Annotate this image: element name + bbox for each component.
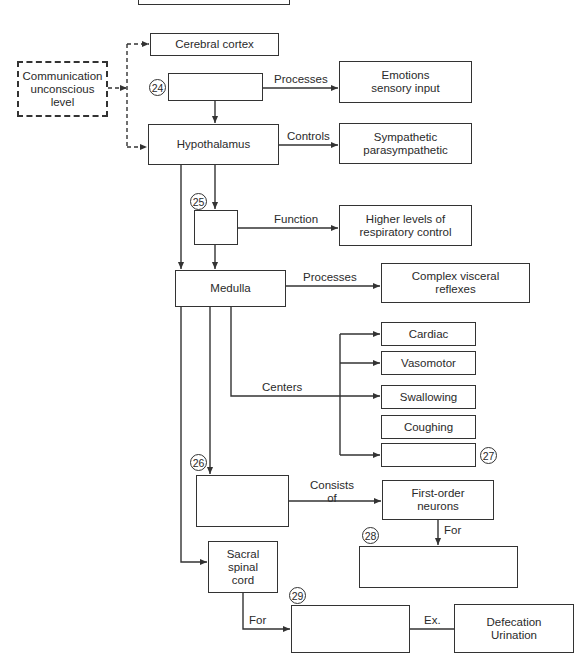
- cardiac-box: Cardiac: [381, 322, 476, 346]
- edge-label-function: Function: [274, 213, 318, 226]
- blank-box-25[interactable]: [194, 210, 238, 245]
- hypothalamus-box: Hypothalamus: [148, 124, 279, 165]
- edge-label-centers: Centers: [262, 381, 302, 394]
- number-29: 29: [289, 587, 306, 604]
- number-27: 27: [480, 447, 497, 464]
- edge-label-processes-2: Processes: [303, 271, 357, 284]
- blank-box-29[interactable]: [291, 605, 410, 653]
- defecation-urination-box: Defecation Urination: [454, 604, 574, 653]
- medulla-box: Medulla: [175, 270, 286, 307]
- blank-box-26[interactable]: [196, 475, 289, 527]
- higher-levels-box: Higher levels of respiratory control: [339, 205, 472, 246]
- edge-label-for: For: [444, 524, 461, 537]
- top-box: [138, 0, 290, 5]
- blank-box-24[interactable]: [168, 73, 263, 101]
- blank-box-28[interactable]: [359, 546, 518, 588]
- emotions-box: Emotions sensory input: [339, 61, 472, 103]
- swallowing-box: Swallowing: [381, 385, 476, 409]
- communication-box: Communication unconscious level: [17, 61, 108, 117]
- number-26: 26: [190, 454, 207, 471]
- number-28: 28: [362, 527, 379, 544]
- edge-label-controls: Controls: [287, 130, 330, 143]
- blank-box-27[interactable]: [381, 443, 476, 467]
- number-24: 24: [149, 79, 166, 96]
- vasomotor-box: Vasomotor: [381, 351, 476, 375]
- edge-label-ex: Ex.: [424, 614, 441, 627]
- sympathetic-box: Sympathetic parasympathetic: [339, 123, 472, 164]
- complex-visceral-box: Complex visceral reflexes: [381, 263, 530, 303]
- edge-label-for-2: For: [249, 614, 266, 627]
- first-order-neurons-box: First-order neurons: [382, 480, 494, 520]
- number-25: 25: [190, 193, 207, 210]
- sacral-spinal-cord-box: Sacral spinal cord: [208, 541, 278, 593]
- cerebral-cortex-box: Cerebral cortex: [150, 33, 279, 56]
- edge-label-consists-of: Consists of: [307, 479, 357, 505]
- coughing-box: Coughing: [381, 415, 476, 439]
- edge-label-processes: Processes: [274, 73, 328, 86]
